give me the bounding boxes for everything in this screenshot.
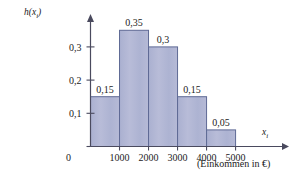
- y-axis-label-paren: ): [37, 7, 41, 18]
- x-tick-label: 2000: [139, 152, 159, 163]
- x-axis-label: xi: [261, 127, 268, 140]
- bar: [149, 47, 178, 147]
- bar: [120, 30, 149, 146]
- bar-value-label: 0,05: [212, 117, 230, 128]
- bar: [207, 130, 236, 147]
- bar-value-label: 0,15: [96, 84, 114, 95]
- y-axis-label: h(xi): [24, 7, 41, 20]
- x-axis-label-subscript: i: [266, 132, 268, 140]
- x-axis-arrowhead: [282, 143, 289, 150]
- bar: [178, 97, 207, 147]
- y-tick-label: 0,2: [69, 75, 82, 86]
- x-tick-label: 3000: [168, 152, 188, 163]
- y-axis-arrowhead: [87, 14, 94, 22]
- x-tick-label: 1000: [110, 152, 130, 163]
- bar: [91, 97, 120, 147]
- y-tick-label: 0,3: [69, 42, 82, 53]
- y-tick-labels: 0,10,20,3: [69, 42, 82, 119]
- y-axis-label-main: h(x: [24, 7, 37, 18]
- x-axis-ticks: [87, 147, 236, 151]
- y-tick-label: 0,1: [69, 108, 82, 119]
- x-axis-caption: (Einkommen in €): [197, 158, 270, 170]
- bar-value-label: 0,15: [183, 84, 201, 95]
- chart-canvas: 010002000300040005000 0,10,20,3 0,150,35…: [0, 0, 290, 173]
- bar-value-label: 0,3: [157, 34, 170, 45]
- x-tick-label: 0: [66, 152, 71, 163]
- bar-value-label: 0,35: [125, 17, 143, 28]
- histogram-chart: 010002000300040005000 0,10,20,3 0,150,35…: [0, 0, 290, 173]
